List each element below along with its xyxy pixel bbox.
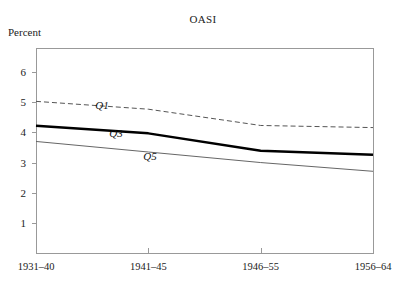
y-tick-label-2: 2 [6, 187, 26, 199]
y-tick-label-5: 5 [6, 96, 26, 108]
y-tick-label-3: 3 [6, 157, 26, 169]
plot-area [0, 0, 406, 296]
series-label-q3: Q3 [109, 127, 122, 139]
series-label-q5: Q5 [143, 150, 156, 162]
y-tick-label-4: 4 [6, 126, 26, 138]
plot-frame [37, 49, 374, 254]
x-tick-label-1: 1941–45 [130, 261, 167, 272]
x-tick-label-0: 1931–40 [18, 261, 55, 272]
x-tick-label-2: 1946–55 [242, 261, 279, 272]
x-tick-label-3: 1956–64 [355, 261, 392, 272]
y-tick-label-6: 6 [6, 66, 26, 78]
chart-figure: OASI Percent 123456 1931–401941–451946–5… [0, 0, 406, 296]
series-label-q1: Q1 [95, 99, 108, 111]
y-tick-label-1: 1 [6, 217, 26, 229]
